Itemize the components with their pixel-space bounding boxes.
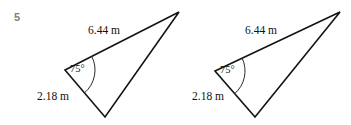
triangle-left-angle-arc — [84, 56, 95, 92]
triangle-right-short-side-label: 2.18 m — [192, 91, 224, 103]
triangle-right-angle-arc — [235, 58, 245, 93]
triangle-right-long-side-label: 6.44 m — [245, 25, 277, 37]
triangle-left-angle-label: 75° — [70, 64, 85, 75]
triangle-left-long-side-label: 6.44 m — [88, 25, 120, 37]
geometry-figure: 5 6.44 m 2.18 m 75° 6.44 m 2.18 m 75° — [0, 0, 351, 125]
triangle-left-short-side-label: 2.18 m — [37, 91, 69, 103]
triangle-right-angle-label: 75° — [220, 65, 235, 76]
triangles-svg — [0, 0, 351, 125]
